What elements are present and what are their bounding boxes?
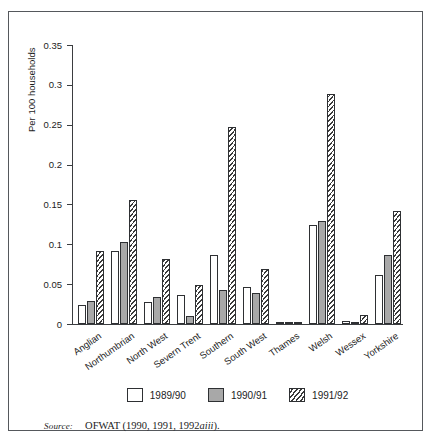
bar-group [276,45,302,324]
bar-group [111,45,137,324]
bar-group [144,45,170,324]
x-axis-tick-label: Yorkshire [362,330,400,362]
bar[interactable] [384,255,392,324]
x-axis-tick-label: Welsh [307,330,335,354]
y-axis-tick-label: 0 [57,320,62,330]
bar[interactable] [228,127,236,324]
bar[interactable] [243,287,251,324]
y-axis-line [72,45,73,325]
bar[interactable] [186,316,194,324]
legend-label-1989-90: 1989/90 [150,390,186,401]
bar[interactable] [375,275,383,324]
legend-swatch-icon-1989-90 [127,388,143,402]
source-label: Source: [44,421,73,431]
y-axis-tick: 0.1 [67,244,72,245]
y-axis-tick: 0.3 [67,85,72,86]
source-citation-suffix: ). [214,420,220,431]
y-axis-tick: 0.25 [67,125,72,126]
plot-area: 00.050.10.150.20.250.30.35 AnglianNorthu… [72,45,403,325]
figure-frame: Per 100 households 00.050.10.150.20.250.… [8,11,423,431]
bar[interactable] [360,315,368,324]
bar[interactable] [120,242,128,324]
y-axis-tick-label: 0.1 [49,240,62,250]
y-axis-tick-label: 0.25 [44,120,63,130]
bar[interactable] [309,225,317,324]
bar[interactable] [285,322,293,324]
legend-item-1990-91: 1990/91 [208,388,267,402]
bar-group [309,45,335,324]
bar[interactable] [195,285,203,324]
legend-label-1990-91: 1990/91 [231,390,267,401]
bar[interactable] [96,251,104,324]
bar[interactable] [162,259,170,324]
legend-swatch-icon-1990-91 [208,388,224,402]
bar[interactable] [210,255,218,324]
bar[interactable] [294,322,302,324]
source-citation: OFWAT (1990, 1991, 1992aiii). [85,420,220,431]
bar[interactable] [393,211,401,324]
chart-legend: 1989/90 1990/91 1991/92 [72,388,403,402]
bar-group [342,45,368,324]
source-citation-italic: aiii [200,420,214,431]
legend-label-1991-92: 1991/92 [312,390,348,401]
y-axis-tick: 0.35 [67,45,72,46]
bar[interactable] [111,251,119,324]
y-axis-tick: 0.2 [67,165,72,166]
legend-swatch-icon-1991-92 [289,388,305,402]
bar[interactable] [318,221,326,324]
y-axis-tick-label: 0.3 [49,81,62,91]
bar[interactable] [219,290,227,324]
y-axis-tick-label: 0.05 [44,280,63,290]
source-citation-main: OFWAT (1990, 1991, 1992 [85,420,199,431]
bar[interactable] [252,293,260,324]
y-axis-tick: 0.05 [67,284,72,285]
x-axis-line [72,324,403,325]
bar[interactable] [261,269,269,324]
y-axis-tick-label: 0.15 [44,200,63,210]
bar-group [375,45,401,324]
bar-group [243,45,269,324]
y-axis-tick: 0.15 [67,204,72,205]
bar[interactable] [342,321,350,324]
bar-group [210,45,236,324]
legend-item-1989-90: 1989/90 [127,388,186,402]
bar[interactable] [129,200,137,324]
bar[interactable] [78,305,86,324]
y-axis-title: Per 100 households [26,47,37,132]
bar[interactable] [87,301,95,324]
y-axis-tick-label: 0.35 [44,41,63,51]
bar[interactable] [153,297,161,324]
x-axis-tick-label: Thames [267,330,301,359]
y-axis-tick-label: 0.2 [49,160,62,170]
bar[interactable] [177,295,185,324]
bar[interactable] [351,322,359,324]
legend-item-1991-92: 1991/92 [289,388,348,402]
bar-group [177,45,203,324]
bar[interactable] [276,322,284,324]
bar-group [78,45,104,324]
source-note: Source:OFWAT (1990, 1991, 1992aiii). [44,420,220,431]
y-axis-tick: 0 [67,324,72,325]
bar[interactable] [327,94,335,324]
bar[interactable] [144,302,152,324]
